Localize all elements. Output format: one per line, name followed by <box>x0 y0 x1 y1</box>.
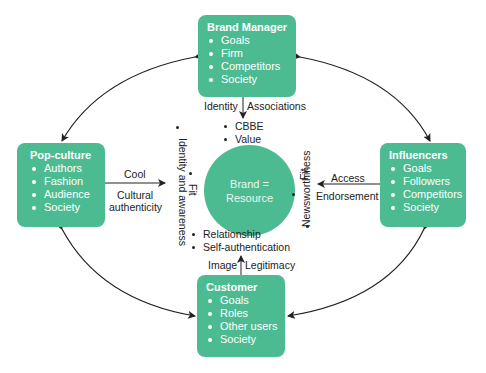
node-item: Society <box>30 201 105 214</box>
center-brand-resource: Brand = Resource <box>204 145 295 236</box>
center-line-2: Resource <box>204 191 295 205</box>
edge-label-access: Access <box>331 172 365 184</box>
outcome-item: CBBE <box>223 120 264 133</box>
node-title: Customer <box>206 281 285 294</box>
node-brand-manager: Brand Manager Goals Firm Competitors Soc… <box>198 15 296 97</box>
node-item: Goals <box>206 294 285 307</box>
edge-label-authenticity: authenticity <box>109 201 162 213</box>
edge-label-cultural: Cultural <box>117 189 153 201</box>
node-item: Society <box>206 333 285 346</box>
outcome-newsworthiness: Newsworthiness <box>300 151 312 227</box>
node-item: Fashion <box>30 175 105 188</box>
node-item: Goals <box>389 162 466 175</box>
outcome-item: Value <box>223 133 264 146</box>
node-item: Other users <box>206 320 285 333</box>
node-title: Brand Manager <box>207 21 296 34</box>
node-item: Roles <box>206 307 285 320</box>
edge-label-cool: Cool <box>124 168 146 180</box>
bullet-dot <box>189 172 192 175</box>
outcome-item: Relationship <box>191 228 290 241</box>
node-item: Society <box>207 73 296 86</box>
edge-label-legitimacy: Legitimacy <box>245 259 295 271</box>
node-item: Firm <box>207 47 296 60</box>
node-pop-culture: Pop-culture Authors Fashion Audience Soc… <box>17 143 105 227</box>
edge-label-identity: Identity <box>204 100 238 112</box>
node-title: Influencers <box>389 149 466 162</box>
outcome-item: Self-authentication <box>191 241 290 254</box>
edge-label-endorsement: Endorsement <box>316 190 378 202</box>
node-title: Pop-culture <box>30 149 105 162</box>
node-item: Competitors <box>389 188 466 201</box>
node-influencers: Influencers Goals Followers Competitors … <box>380 143 466 227</box>
edge-label-image: Image <box>208 259 237 271</box>
edge-label-associations: Associations <box>247 100 306 112</box>
outcomes-customer: Relationship Self-authentication <box>191 228 290 254</box>
node-item: Goals <box>207 34 296 47</box>
bullet-dot <box>176 126 179 129</box>
node-item: Authors <box>30 162 105 175</box>
bullet-dot <box>292 193 295 196</box>
bullet-dot <box>306 225 309 228</box>
outcomes-brand-manager: CBBE Value <box>223 120 264 146</box>
node-item: Audience <box>30 188 105 201</box>
outcome-fit-left: Fit <box>187 184 199 196</box>
center-line-1: Brand = <box>204 177 295 191</box>
node-item: Followers <box>389 175 466 188</box>
node-item: Society <box>389 201 466 214</box>
node-customer: Customer Goals Roles Other users Society <box>197 275 285 357</box>
node-item: Competitors <box>207 60 296 73</box>
